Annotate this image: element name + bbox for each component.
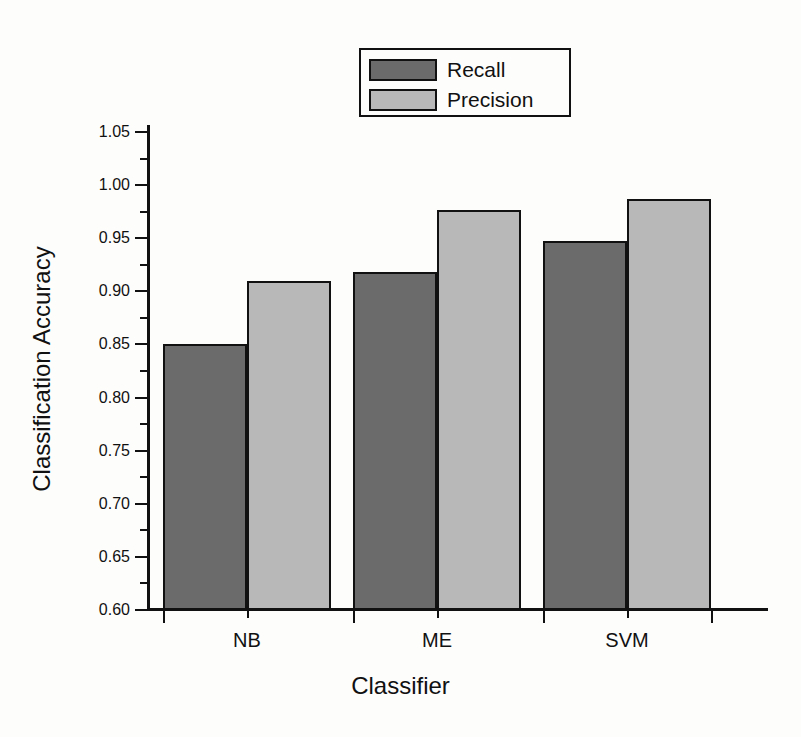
- plot-area: [148, 125, 768, 610]
- y-tick-major: [135, 397, 148, 399]
- y-tick-major: [135, 131, 148, 133]
- x-tick-minor: [437, 610, 439, 618]
- x-tick-major: [353, 610, 355, 623]
- y-tick-label: 0.85: [70, 336, 130, 352]
- y-axis-title: Classification Accuracy: [28, 159, 56, 579]
- y-tick-major: [135, 237, 148, 239]
- y-tick-major: [135, 556, 148, 558]
- y-tick-major: [135, 450, 148, 452]
- legend-label-precision: Precision: [447, 88, 533, 111]
- bar-svm-precision: [627, 199, 711, 610]
- bar-me-precision: [437, 210, 521, 610]
- y-tick-major: [135, 184, 148, 186]
- x-tick-minor: [247, 610, 249, 618]
- y-tick-major: [135, 290, 148, 292]
- y-tick-minor: [140, 370, 148, 372]
- x-tick-major: [543, 610, 545, 623]
- y-tick-label: 1.00: [70, 177, 130, 193]
- y-tick-minor: [140, 582, 148, 584]
- y-tick-major: [135, 503, 148, 505]
- chart-legend: Recall Precision: [359, 48, 571, 117]
- y-tick-label: 0.75: [70, 443, 130, 459]
- y-tick-label: 1.05: [70, 124, 130, 140]
- legend-label-recall: Recall: [447, 58, 505, 81]
- x-tick-label-svm: SVM: [605, 628, 648, 652]
- y-tick-minor: [140, 158, 148, 160]
- y-axis-ticks: 1.051.000.950.900.850.800.750.700.650.60: [62, 0, 130, 737]
- y-tick-label: 0.95: [70, 230, 130, 246]
- y-tick-label: 0.90: [70, 283, 130, 299]
- y-tick-major: [135, 343, 148, 345]
- y-tick-minor: [140, 476, 148, 478]
- y-tick-label: 0.65: [70, 549, 130, 565]
- y-tick-minor: [140, 317, 148, 319]
- legend-item-recall: Recall: [369, 56, 561, 83]
- x-tick-major: [711, 610, 713, 623]
- bar-chart: Recall Precision 1.051.000.950.900.850.8…: [0, 0, 801, 737]
- x-tick-major: [163, 610, 165, 623]
- x-tick-label-me: ME: [422, 628, 452, 652]
- legend-item-precision: Precision: [369, 86, 561, 113]
- bar-nb-precision: [247, 281, 331, 610]
- legend-swatch-recall-icon: [369, 59, 437, 81]
- bar-me-recall: [353, 272, 437, 610]
- y-tick-label: 0.80: [70, 390, 130, 406]
- y-tick-label: 0.60: [70, 602, 130, 618]
- x-axis-title: Classifier: [0, 672, 801, 700]
- y-tick-minor: [140, 264, 148, 266]
- y-tick-minor: [140, 211, 148, 213]
- y-tick-major: [135, 609, 148, 611]
- legend-swatch-precision-icon: [369, 89, 437, 111]
- y-tick-minor: [140, 423, 148, 425]
- bar-nb-recall: [163, 344, 247, 610]
- x-tick-label-nb: NB: [233, 628, 261, 652]
- x-tick-minor: [627, 610, 629, 618]
- bar-svm-recall: [543, 241, 627, 610]
- y-tick-label: 0.70: [70, 496, 130, 512]
- y-tick-minor: [140, 529, 148, 531]
